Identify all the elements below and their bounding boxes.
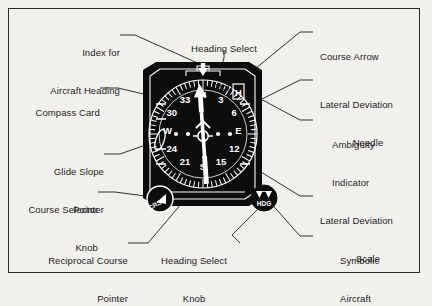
callout-line-2: Pointer — [36, 293, 128, 306]
callout-line-1: Course Arrow — [320, 51, 420, 64]
callout-line-1: Lateral Deviation — [320, 215, 424, 228]
callout-reciprocal-course-pointer: Reciprocal Course Pointer — [36, 230, 128, 306]
svg-text:30: 30 — [167, 107, 178, 118]
callout-line-2: Indicator — [332, 177, 424, 190]
svg-text:15: 15 — [216, 156, 227, 167]
callout-symbolic-aircraft: Symbolic Aircraft — [340, 230, 424, 306]
callout-heading-select-knob: Heading Select Knob — [152, 230, 236, 306]
callout-line-1: Symbolic — [340, 255, 424, 268]
callout-line-2: Knob — [152, 293, 236, 306]
callout-line-2: Aircraft — [340, 293, 424, 306]
deviation-dot-left-inner — [186, 132, 190, 136]
callout-line-1: Index for — [14, 47, 120, 60]
course-selector-knob: CRS — [147, 186, 173, 212]
callout-line-1: Compass Card — [14, 107, 100, 120]
svg-text:E: E — [235, 125, 241, 136]
callout-line-1: Glide Slope — [14, 166, 104, 179]
heading-select-knob-body — [251, 185, 277, 211]
deviation-dot-right-inner — [216, 132, 220, 136]
deviation-dot-right-outer — [228, 132, 232, 136]
callout-line-1: Heading Select — [152, 255, 236, 268]
callout-heading-select-bug: Heading Select Bug — [182, 18, 266, 118]
callout-line-2: Bug — [182, 81, 266, 94]
heading-select-knob: HDG — [251, 185, 277, 211]
callout-line-1: Course Selector — [10, 204, 98, 217]
callout-line-1: Reciprocal Course — [36, 255, 128, 268]
svg-text:21: 21 — [180, 156, 191, 167]
deviation-dot-left-outer — [174, 132, 178, 136]
svg-text:12: 12 — [229, 143, 240, 154]
callout-line-1: Lateral Deviation — [320, 99, 424, 112]
callout-line-1: Ambiguity — [332, 139, 424, 152]
heading-select-knob-label: HDG — [257, 200, 271, 207]
callout-line-1: Heading Select — [182, 43, 266, 56]
svg-text:24: 24 — [167, 143, 178, 154]
leader-heading-select-knob — [232, 205, 262, 243]
callout-compass-card: Compass Card — [14, 82, 100, 145]
